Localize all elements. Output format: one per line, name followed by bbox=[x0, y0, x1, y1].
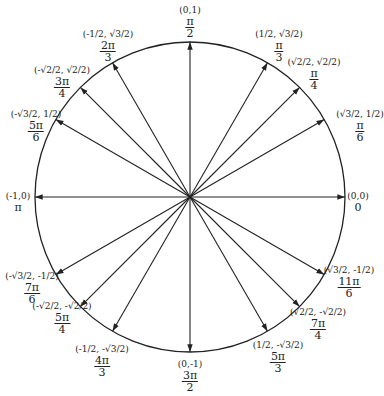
angle-denominator: 4 bbox=[54, 324, 70, 335]
angle-denominator: 3 bbox=[274, 52, 283, 63]
vector-arrow-4pi3 bbox=[113, 197, 191, 331]
angle-denominator: 3 bbox=[100, 52, 116, 63]
angle-fraction: 3π2 bbox=[182, 370, 198, 393]
angle-denominator: 4 bbox=[54, 88, 70, 99]
angle-fraction: π2 bbox=[185, 16, 194, 39]
coordinate-text: (√3/2, 1/2) bbox=[336, 110, 383, 119]
point-label-pi3: (1/2, √3/2)π3 bbox=[255, 30, 302, 64]
coordinate-text: (-√3/2, -1/2) bbox=[5, 272, 59, 281]
angle-fraction: 4π3 bbox=[94, 355, 110, 378]
coordinate-text: (√3/2, -1/2) bbox=[324, 266, 375, 275]
angle-value: 0 bbox=[347, 202, 368, 213]
point-label-11pi6: (√3/2, -1/2)11π6 bbox=[324, 266, 375, 300]
angle-denominator: 2 bbox=[185, 28, 194, 39]
vector-arrow-5pi4 bbox=[80, 197, 190, 307]
vector-arrow-7pi4 bbox=[190, 197, 300, 307]
vector-arrow-2pi3 bbox=[113, 63, 191, 197]
angle-denominator: 6 bbox=[355, 132, 364, 143]
point-label-0: (0,0)0 bbox=[347, 192, 368, 213]
coordinate-text: (1/2, √3/2) bbox=[255, 30, 302, 39]
vector-arrow-5pi6 bbox=[56, 120, 190, 198]
coordinate-text: (-√2/2, -√2/2) bbox=[32, 302, 91, 311]
angle-denominator: 4 bbox=[310, 330, 326, 341]
vector-arrow-5pi3 bbox=[190, 197, 268, 331]
coordinate-text: (-√2/2, √2/2) bbox=[34, 66, 90, 75]
point-label-3pi2: (0,-1)3π2 bbox=[178, 360, 202, 394]
vector-arrow-11pi6 bbox=[190, 197, 324, 275]
vector-arrow-pi3 bbox=[190, 63, 268, 197]
angle-fraction: π3 bbox=[274, 40, 283, 63]
angle-value: π bbox=[6, 202, 30, 213]
point-label-3pi4: (-√2/2, √2/2)3π4 bbox=[34, 66, 90, 100]
point-label-5pi3: (1/2, -√3/2)5π3 bbox=[253, 341, 304, 375]
point-label-pi2: (0,1)π2 bbox=[179, 6, 200, 40]
vector-arrow-7pi6 bbox=[56, 197, 190, 275]
point-label-5pi6: (-√3/2, 1/2)5π6 bbox=[11, 110, 62, 144]
point-label-pi6: (√3/2, 1/2)π6 bbox=[336, 110, 383, 144]
coordinate-text: (0,0) bbox=[347, 192, 368, 201]
angle-fraction: 3π4 bbox=[54, 76, 70, 99]
angle-denominator: 4 bbox=[309, 80, 318, 91]
angle-denominator: 3 bbox=[270, 363, 286, 374]
angle-denominator: 2 bbox=[182, 382, 198, 393]
point-label-4pi3: (-1/2, -√3/2)4π3 bbox=[75, 345, 129, 379]
coordinate-text: (0,1) bbox=[179, 6, 200, 15]
coordinate-text: (-1/2, -√3/2) bbox=[75, 345, 129, 354]
coordinate-text: (1/2, -√3/2) bbox=[253, 341, 304, 350]
vector-arrow-pi6 bbox=[190, 120, 324, 198]
point-label-7pi4: (√2/2, -√2/2)7π4 bbox=[290, 308, 346, 342]
angle-fraction: 5π6 bbox=[28, 120, 44, 143]
coordinate-text: (√2/2, -√2/2) bbox=[290, 308, 346, 317]
coordinate-text: (-1,0) bbox=[6, 192, 30, 201]
coordinate-text: (-√3/2, 1/2) bbox=[11, 110, 62, 119]
vector-arrow-pi4 bbox=[190, 87, 300, 197]
point-label-2pi3: (-1/2, √3/2)2π3 bbox=[83, 30, 134, 64]
angle-fraction: π4 bbox=[309, 68, 318, 91]
coordinate-text: (-1/2, √3/2) bbox=[83, 30, 134, 39]
angle-fraction: 5π4 bbox=[54, 312, 70, 335]
angle-denominator: 6 bbox=[337, 288, 360, 299]
angle-fraction: 5π3 bbox=[270, 351, 286, 374]
point-label-5pi4: (-√2/2, -√2/2)5π4 bbox=[32, 302, 91, 336]
angle-fraction: 7π4 bbox=[310, 318, 326, 341]
vector-arrow-3pi4 bbox=[80, 87, 190, 197]
angle-fraction: π6 bbox=[355, 120, 364, 143]
point-label-pi: (-1,0)π bbox=[6, 192, 30, 213]
coordinate-text: (0,-1) bbox=[178, 360, 202, 369]
angle-denominator: 6 bbox=[28, 132, 44, 143]
angle-denominator: 3 bbox=[94, 367, 110, 378]
angle-fraction: 2π3 bbox=[100, 40, 116, 63]
angle-fraction: 11π6 bbox=[337, 276, 360, 299]
